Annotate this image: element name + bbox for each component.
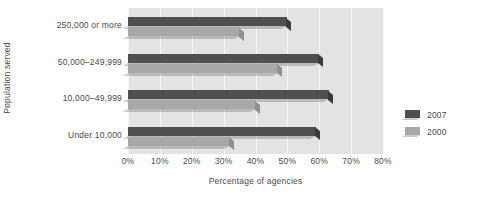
category-label-2: 10,000–49,999: [18, 93, 122, 103]
gridline: [383, 8, 384, 154]
legend-label-2000: 2000: [427, 127, 447, 137]
category-label-0: 250,000 or more: [18, 20, 122, 30]
bar-2007-3: [128, 127, 316, 136]
bar-2000-2: [128, 100, 256, 109]
bar-group: [128, 81, 383, 118]
y-axis-title: Population served: [2, 0, 12, 18]
bar-end-cap: [277, 64, 282, 77]
bar-2000-0: [128, 27, 240, 36]
bar-chart: Population served 250,000 or more50,000–…: [0, 0, 490, 205]
legend-item-2000[interactable]: 2000: [405, 125, 475, 139]
legend-swatch-face: [405, 110, 420, 118]
category-axis-labels: 250,000 or more50,000–249,99910,000–49,9…: [22, 8, 126, 154]
bar-2000-3: [128, 137, 230, 146]
legend-swatch-face: [405, 127, 420, 135]
bar-shadow: [123, 109, 255, 112]
category-label-1: 50,000–249,999: [18, 57, 122, 67]
bar-face: [128, 27, 240, 36]
legend-swatch-shadow: [402, 118, 420, 120]
bar-shadow: [123, 36, 239, 39]
bar-group: [128, 8, 383, 45]
bar-face: [128, 17, 287, 26]
category-label-3: Under 10,000: [18, 130, 122, 140]
bar-end-cap: [286, 17, 291, 30]
x-axis-title: Percentage of agencies: [128, 176, 383, 186]
bar-face: [128, 127, 316, 136]
bar-2007-1: [128, 54, 319, 63]
bar-group: [128, 118, 383, 155]
legend-label-2007: 2007: [427, 110, 447, 120]
bar-face: [128, 137, 230, 146]
bar-end-cap: [315, 127, 320, 140]
bar-shadow: [123, 146, 230, 149]
bar-end-cap: [239, 27, 244, 40]
bar-end-cap: [328, 90, 333, 103]
bar-face: [128, 54, 319, 63]
legend-item-2007[interactable]: 2007: [405, 108, 475, 122]
bar-shadow: [123, 73, 278, 76]
x-tick-label-8: 80%: [363, 156, 403, 166]
legend-swatch-2007: [405, 110, 420, 118]
bar-face: [128, 90, 329, 99]
bar-group: [128, 45, 383, 82]
y-axis-title-text: Population served: [2, 18, 12, 138]
bar-end-cap: [229, 137, 234, 150]
bar-face: [128, 64, 278, 73]
plot-area: [128, 8, 383, 154]
legend: 20072000: [405, 108, 475, 142]
x-axis-ticks: 0%10%20%30%40%50%60%70%80%: [128, 156, 383, 170]
bar-end-cap: [255, 100, 260, 113]
bar-2000-1: [128, 64, 278, 73]
bar-face: [128, 100, 256, 109]
bar-end-cap: [318, 54, 323, 67]
legend-swatch-2000: [405, 127, 420, 135]
legend-swatch-shadow: [402, 135, 420, 137]
bar-2007-0: [128, 17, 287, 26]
bar-2007-2: [128, 90, 329, 99]
